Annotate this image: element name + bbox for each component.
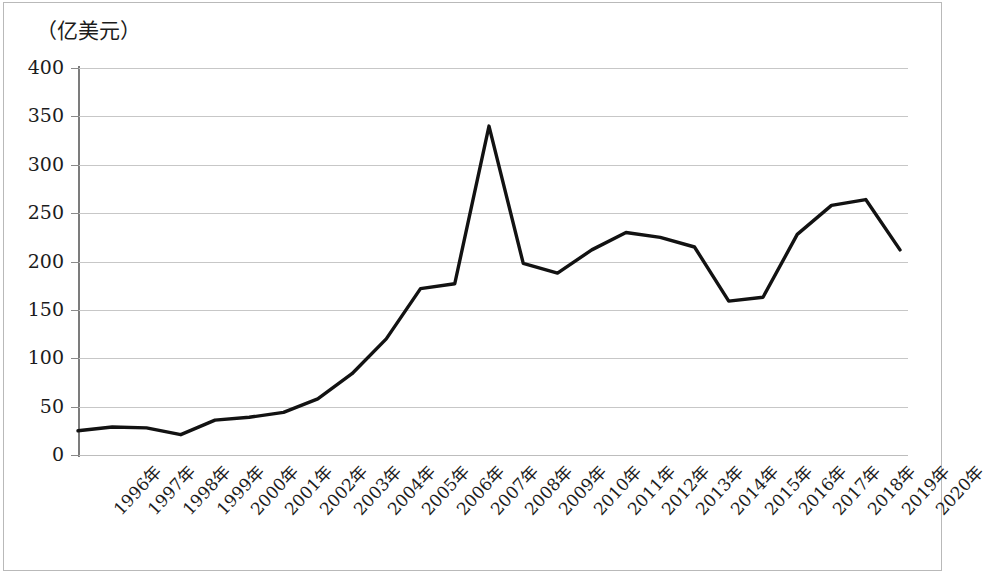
y-axis-tick-label: 200 bbox=[20, 252, 64, 271]
y-axis-tick-label: 250 bbox=[20, 203, 64, 222]
y-axis-tick-mark bbox=[71, 213, 79, 214]
y-axis-tick-label: 0 bbox=[20, 445, 64, 464]
y-axis-tick-label: 100 bbox=[20, 348, 64, 367]
y-axis-tick-label: 50 bbox=[20, 397, 64, 416]
y-axis-tick-mark bbox=[71, 116, 79, 117]
y-axis-tick-label: 150 bbox=[20, 300, 64, 319]
y-axis-tick-labels: 050100150200250300350400 bbox=[14, 0, 64, 575]
y-axis-tick-mark bbox=[71, 358, 79, 359]
plot-area bbox=[78, 68, 930, 455]
gridline bbox=[78, 455, 908, 456]
y-axis-tick-label: 400 bbox=[20, 58, 64, 77]
y-axis-tick-mark bbox=[71, 407, 79, 408]
y-axis-tick-mark bbox=[71, 68, 79, 69]
y-axis-tick-mark bbox=[71, 455, 79, 456]
x-axis-tick-labels: 1996年1997年1998年1999年2000年2001年2002年2003年… bbox=[78, 462, 948, 572]
y-axis-tick-mark bbox=[71, 262, 79, 263]
y-axis-tick-mark bbox=[71, 310, 79, 311]
data-series-line bbox=[78, 68, 930, 455]
y-axis-tick-label: 350 bbox=[20, 106, 64, 125]
y-axis-tick-label: 300 bbox=[20, 155, 64, 174]
y-axis-tick-mark bbox=[71, 165, 79, 166]
